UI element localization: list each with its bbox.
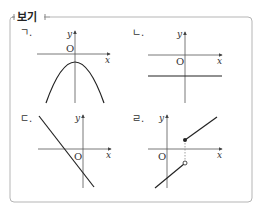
decreasing-line bbox=[39, 116, 94, 187]
x-axis-label: x bbox=[106, 150, 111, 160]
lower-line-segment bbox=[155, 164, 184, 188]
upper-line-segment bbox=[185, 117, 217, 140]
graph-label: ㄹ. bbox=[132, 113, 144, 124]
x-axis-label: x bbox=[217, 150, 222, 160]
origin-label: O bbox=[176, 56, 184, 67]
graph-label: ㄴ. bbox=[132, 27, 144, 38]
bogi-box: 보기 ㄱ. x y O ㄴ. x y O ㄷ. x y O ㄹ. bbox=[0, 0, 262, 212]
origin-label: O bbox=[158, 151, 166, 162]
closed-dot bbox=[183, 138, 187, 142]
y-axis-label: y bbox=[66, 29, 73, 39]
graph-digeut: ㄷ. x y O bbox=[20, 113, 111, 188]
x-axis-label: x bbox=[217, 56, 222, 66]
y-axis-label: y bbox=[74, 113, 81, 123]
graph-nieun: ㄴ. x y O bbox=[132, 27, 222, 103]
graph-label: ㄷ. bbox=[20, 113, 32, 124]
origin-label: O bbox=[66, 43, 74, 54]
y-axis-label: y bbox=[158, 113, 165, 123]
origin-label: O bbox=[74, 151, 82, 162]
graph-rieul: ㄹ. x y O bbox=[132, 113, 222, 188]
y-axis-label: y bbox=[176, 29, 183, 39]
box-title: 보기 bbox=[17, 10, 37, 24]
open-dot bbox=[183, 161, 187, 165]
x-axis-label: x bbox=[105, 55, 110, 65]
graph-label: ㄱ. bbox=[20, 27, 32, 38]
box-frame bbox=[10, 17, 252, 202]
graph-giyeok: ㄱ. x y O bbox=[20, 27, 110, 103]
